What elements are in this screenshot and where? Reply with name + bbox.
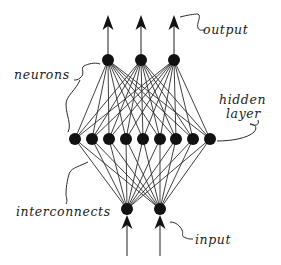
input-layer bbox=[121, 203, 166, 215]
hidden-layer-label-line1: hidden bbox=[219, 92, 266, 107]
neurons-callout-line-2 bbox=[66, 80, 80, 132]
interconnects-callout-line bbox=[66, 162, 88, 204]
hidden-neuron bbox=[170, 133, 182, 145]
interconnect-line bbox=[160, 139, 210, 209]
hidden-layer-label-line2: layer bbox=[226, 106, 261, 121]
output-neuron bbox=[102, 54, 114, 66]
output-arrows bbox=[103, 15, 180, 58]
input-neuron bbox=[154, 203, 166, 215]
interconnect-line bbox=[160, 139, 193, 209]
neurons-callout-line bbox=[74, 63, 100, 80]
hidden-neuron bbox=[103, 133, 115, 145]
hidden-neuron bbox=[69, 133, 81, 145]
interconnect-line bbox=[143, 139, 160, 209]
interconnect-line bbox=[75, 139, 160, 209]
interconnects-label: interconnects bbox=[16, 204, 111, 219]
neurons-label: neurons bbox=[14, 67, 70, 82]
hidden-neuron bbox=[154, 133, 166, 145]
input-neuron bbox=[121, 203, 133, 215]
hidden-layer-callout-line bbox=[217, 120, 258, 141]
interconnect-line bbox=[92, 139, 127, 209]
hidden-neuron bbox=[137, 133, 149, 145]
input-arrows bbox=[122, 215, 166, 256]
output-callout-line bbox=[180, 14, 205, 30]
interconnect-line bbox=[75, 60, 108, 139]
hidden-output-interconnects bbox=[75, 60, 210, 139]
hidden-neuron bbox=[120, 133, 132, 145]
hidden-neuron bbox=[187, 133, 199, 145]
input-label: input bbox=[195, 232, 232, 247]
hidden-layer bbox=[69, 133, 216, 145]
input-callout-line bbox=[170, 222, 193, 239]
interconnect-line bbox=[75, 139, 127, 209]
output-neuron bbox=[135, 54, 147, 66]
interconnect-line bbox=[174, 60, 193, 139]
interconnect-line bbox=[92, 60, 108, 139]
hidden-neuron bbox=[86, 133, 98, 145]
input-hidden-interconnects bbox=[75, 139, 210, 209]
output-neuron bbox=[168, 54, 180, 66]
neural-network-diagram: output neurons hidden layer interconnect… bbox=[0, 0, 281, 265]
interconnect-line bbox=[174, 60, 210, 139]
hidden-neuron bbox=[204, 133, 216, 145]
interconnect-line bbox=[108, 60, 143, 139]
output-label: output bbox=[203, 22, 249, 37]
